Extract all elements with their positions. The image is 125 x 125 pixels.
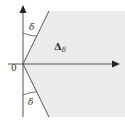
upper-angle-label: δ	[29, 22, 34, 32]
lower-angle-arc	[23, 92, 37, 95]
origin-label: 0	[11, 63, 17, 73]
lower-angle-label: δ	[28, 97, 33, 107]
upper-angle-arc	[23, 33, 37, 36]
y-axis-arrow-icon	[20, 5, 27, 13]
region-label-subscript: δ	[62, 46, 66, 54]
sector-diagram: δ δ 0 Δδ	[0, 0, 125, 125]
